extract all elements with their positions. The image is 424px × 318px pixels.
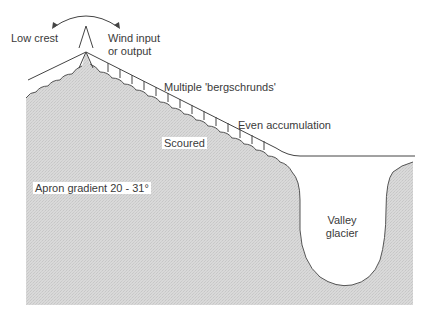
low-crest-label: Low crest bbox=[11, 32, 58, 44]
crest-peak-icon bbox=[79, 26, 93, 48]
glacier-label: glacier bbox=[318, 227, 366, 239]
wind-output-label: or output bbox=[108, 45, 151, 57]
diagram-canvas bbox=[0, 0, 424, 318]
scoured-label: Scoured bbox=[162, 137, 207, 149]
valley-label: Valley bbox=[318, 214, 366, 226]
even-accumulation-label: Even accumulation bbox=[238, 119, 331, 131]
wind-input-label: Wind input bbox=[108, 32, 160, 44]
bergschrunds-label: Multiple 'bergschrunds' bbox=[164, 81, 276, 93]
apron-gradient-label: Apron gradient 20 - 31° bbox=[33, 182, 151, 194]
